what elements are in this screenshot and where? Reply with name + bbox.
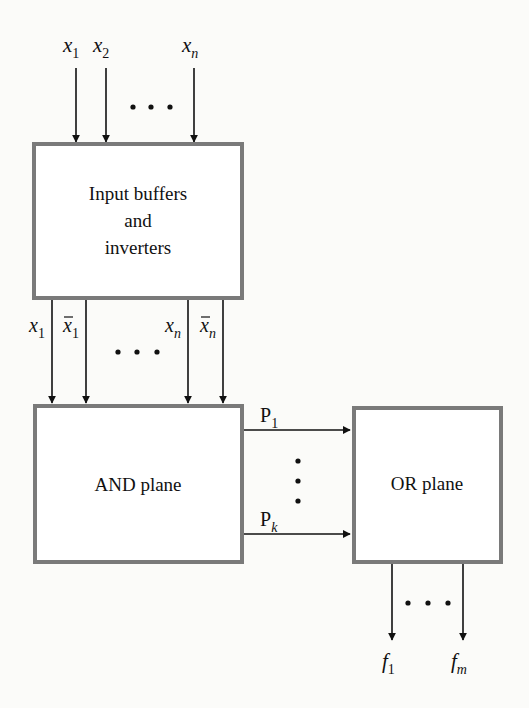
svg-text:and: and xyxy=(124,210,152,231)
label-x1: x1 xyxy=(28,314,45,341)
product-term-ellipsis xyxy=(295,458,300,503)
output-labels: f1 fm xyxy=(382,649,467,677)
label-p1: P1 xyxy=(260,404,278,431)
or-plane-label: OR plane xyxy=(391,473,463,494)
input-label-xn: xn xyxy=(181,33,198,61)
svg-text:Input buffers: Input buffers xyxy=(89,183,187,204)
label-xn-bar: xn xyxy=(199,314,216,341)
label-fm: fm xyxy=(451,649,467,677)
label-pk: Pk xyxy=(260,508,278,535)
pla-block-diagram: x1 x2 xn Input buffers and inverters x1 … xyxy=(0,0,529,708)
label-x1-bar: x1 xyxy=(62,314,79,341)
input-arrows xyxy=(76,68,194,142)
buffer-output-ellipsis xyxy=(115,349,159,354)
product-term-labels: P1 Pk xyxy=(260,404,278,535)
input-label-x2: x2 xyxy=(92,33,109,61)
and-plane-label: AND plane xyxy=(94,474,181,495)
input-ellipsis xyxy=(130,104,172,109)
input-label-x1: x1 xyxy=(62,33,79,61)
label-f1: f1 xyxy=(382,649,395,677)
label-xn: xn xyxy=(164,314,181,341)
svg-text:inverters: inverters xyxy=(105,237,171,258)
output-ellipsis xyxy=(405,600,450,605)
input-labels: x1 x2 xn xyxy=(62,33,198,61)
